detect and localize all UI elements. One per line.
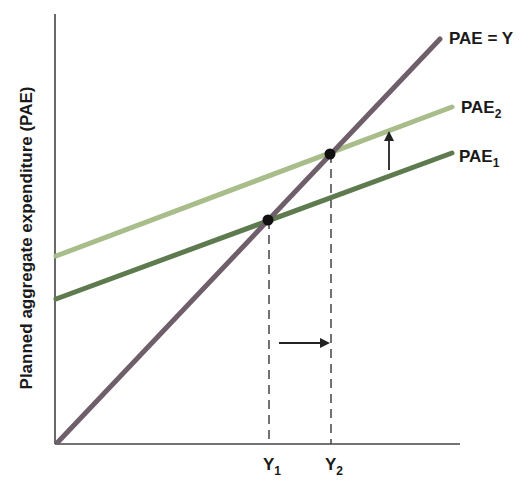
y1-tick-label: Y1	[263, 455, 281, 478]
pae2-label: PAE2	[461, 98, 502, 121]
equilibrium-point-2	[325, 149, 336, 160]
pae1-label: PAE1	[459, 147, 500, 170]
pae-eq-y-label: PAE = Y	[449, 29, 514, 48]
pae-eq-y-line	[58, 39, 440, 442]
keynesian-cross-diagram: Planned aggregate expenditure (PAE) PAE …	[0, 0, 531, 488]
y2-tick-label: Y2	[325, 455, 343, 478]
y-axis-label: Planned aggregate expenditure (PAE)	[17, 87, 36, 390]
equilibrium-point-1	[263, 215, 274, 226]
pae1-line	[56, 153, 452, 299]
